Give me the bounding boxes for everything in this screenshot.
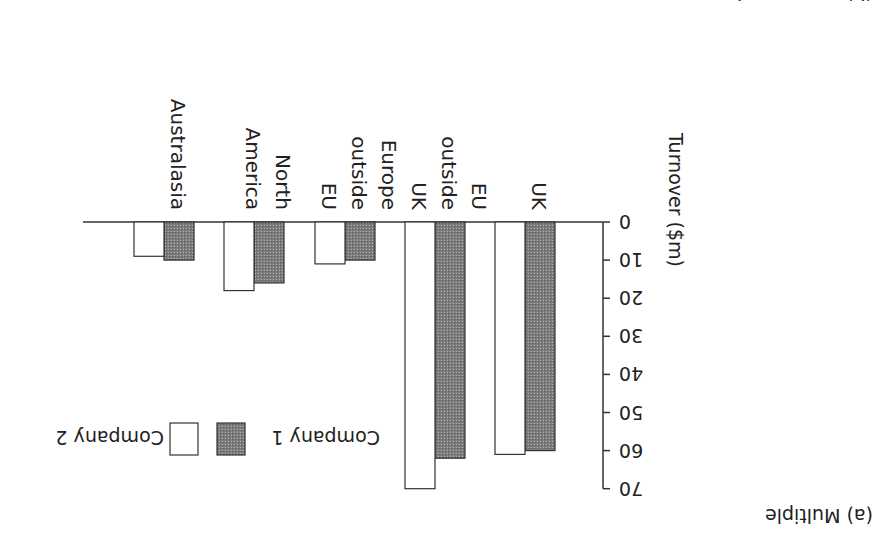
bar-company1 xyxy=(345,222,375,260)
y-tick-label: 10 xyxy=(619,249,643,271)
category-label: Europe xyxy=(377,140,401,210)
bar-company1 xyxy=(525,222,555,451)
category-label: EU xyxy=(317,183,341,210)
category-label: UK xyxy=(527,182,551,211)
rotated-chart-canvas: (a) Multiple (b) Compound Turnover ($m) … xyxy=(0,0,883,559)
y-tick-label: 0 xyxy=(619,211,631,233)
y-axis-title: Turnover ($m) xyxy=(665,132,687,267)
category-label: outside xyxy=(437,136,461,210)
legend-label-company2: Company 2 xyxy=(55,427,164,449)
y-tick-label: 40 xyxy=(619,363,643,385)
bar-company1 xyxy=(435,222,465,458)
category-label: America xyxy=(241,128,265,211)
y-tick-label: 60 xyxy=(619,440,643,462)
bar-company2 xyxy=(405,222,435,489)
bar-company2 xyxy=(315,222,345,264)
bar-company1 xyxy=(164,222,194,260)
bar-company2 xyxy=(495,222,525,454)
legend: Company 1Company 2 xyxy=(55,423,380,455)
legend-swatch-company1 xyxy=(217,423,245,455)
category-label: North xyxy=(271,154,295,210)
next-panel-label: (b) Compound xyxy=(737,0,873,4)
bar-chart: (a) Multiple (b) Compound Turnover ($m) … xyxy=(0,0,883,559)
category-label: Australasia xyxy=(166,99,190,210)
category-labels: UKEUoutsideUKEuropeoutsideEUNorthAmerica… xyxy=(166,99,551,211)
bar-company2 xyxy=(224,222,254,291)
category-label: UK xyxy=(407,182,431,211)
y-tick-label: 70 xyxy=(619,478,643,500)
y-tick-label: 50 xyxy=(619,402,643,424)
category-label: outside xyxy=(347,136,371,210)
legend-label-company1: Company 1 xyxy=(271,427,380,449)
category-label: EU xyxy=(467,183,491,210)
panel-title: (a) Multiple xyxy=(765,505,873,527)
y-tick-label: 20 xyxy=(619,287,643,309)
bar-company1 xyxy=(254,222,284,283)
y-tick-label: 30 xyxy=(619,325,643,347)
bar-company2 xyxy=(134,222,164,256)
legend-swatch-company2 xyxy=(170,423,198,455)
